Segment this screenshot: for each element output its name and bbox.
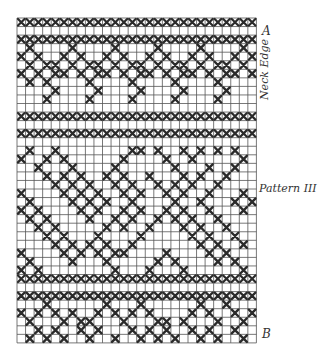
neck-edge-label: Neck Edge: [258, 39, 271, 100]
cross-stitch-chart: [0, 0, 336, 360]
marker-a-label: A: [262, 24, 271, 38]
pattern-label: Pattern III: [259, 182, 317, 195]
marker-b-label: B: [262, 327, 271, 341]
